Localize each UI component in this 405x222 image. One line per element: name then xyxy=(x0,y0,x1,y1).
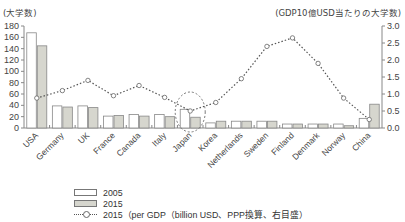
bar-2015 xyxy=(114,116,124,128)
line-marker xyxy=(265,44,269,48)
left-tick-label: 0 xyxy=(14,123,19,133)
right-tick-label: 1.5 xyxy=(387,72,400,82)
bar-2015 xyxy=(267,121,277,128)
right-tick-label: 0.5 xyxy=(387,106,400,116)
line-marker xyxy=(316,61,320,65)
bar-2005 xyxy=(283,124,293,128)
bar-2015 xyxy=(63,107,73,128)
category-label: Denmark xyxy=(290,130,322,162)
left-tick-label: 40 xyxy=(9,100,19,110)
bar-2005 xyxy=(155,114,165,128)
right-tick-label: 2.5 xyxy=(387,38,400,48)
right-tick-label: 1.0 xyxy=(387,89,400,99)
legend: 2005 2015 2015（per GDP（billion USD、PPP換算… xyxy=(74,187,308,220)
bar-2005 xyxy=(206,123,216,128)
legend-label-2005: 2005 xyxy=(103,188,123,198)
left-tick-label: 140 xyxy=(4,44,19,54)
bar-2015 xyxy=(88,108,98,128)
category-label: Canada xyxy=(114,130,142,158)
left-tick-label: 60 xyxy=(9,89,19,99)
line-marker xyxy=(188,109,192,113)
legend-swatch-2015 xyxy=(74,200,97,207)
bar-2015 xyxy=(242,121,252,128)
right-tick-label: 3.0 xyxy=(387,21,400,31)
left-tick-label: 120 xyxy=(4,55,19,65)
left-tick-label: 20 xyxy=(9,112,19,122)
category-label: France xyxy=(91,130,117,156)
line-marker xyxy=(137,83,141,87)
category-label: UK xyxy=(76,130,92,146)
category-label: Norway xyxy=(320,130,348,158)
bar-2015 xyxy=(165,117,175,128)
line-marker xyxy=(290,36,294,40)
bar-2015 xyxy=(344,126,354,128)
category-label: Sweden xyxy=(242,130,271,159)
category-label: Italy xyxy=(150,130,169,149)
bar-2005 xyxy=(129,114,139,128)
line-marker xyxy=(239,77,243,81)
line-marker xyxy=(341,96,345,100)
bar-2015 xyxy=(370,104,380,128)
line-marker xyxy=(60,88,64,92)
category-label: Germany xyxy=(34,130,66,162)
bar-2005 xyxy=(334,124,344,128)
bar-2005 xyxy=(78,106,88,128)
left-tick-label: 160 xyxy=(4,32,19,42)
line-marker xyxy=(35,96,39,100)
line-marker xyxy=(214,100,218,104)
bar-2015 xyxy=(140,116,150,128)
line-marker xyxy=(162,95,166,99)
left-tick-label: 180 xyxy=(4,21,19,31)
bar-2005 xyxy=(27,33,36,128)
legend-item-2005: 2005 xyxy=(74,187,308,198)
bar-2015 xyxy=(293,124,303,128)
bar-2015 xyxy=(319,124,329,128)
bar-2015 xyxy=(191,117,201,128)
line-marker xyxy=(367,117,371,121)
bar-line-chart: 0204060801001201401601800.00.51.01.52.02… xyxy=(0,0,405,185)
bar-2015 xyxy=(37,46,47,128)
left-tick-label: 100 xyxy=(4,66,19,76)
bar-2005 xyxy=(52,106,62,128)
category-label: China xyxy=(350,130,373,153)
category-label: USA xyxy=(21,130,41,150)
line-marker xyxy=(86,78,90,82)
right-tick-label: 0.0 xyxy=(387,123,400,133)
legend-item-per-gdp: 2015（per GDP（billion USD、PPP換算、右目盛） xyxy=(74,209,308,220)
left-tick-label: 80 xyxy=(9,78,19,88)
line-marker xyxy=(111,94,115,98)
legend-label-2015: 2015 xyxy=(103,199,123,209)
legend-label-per-gdp: 2015（per GDP（billion USD、PPP換算、右目盛） xyxy=(103,208,308,221)
legend-swatch-dotted-line-icon xyxy=(74,211,97,218)
category-label: Japan xyxy=(170,130,194,154)
bar-2015 xyxy=(216,121,226,128)
category-label: Korea xyxy=(196,130,219,153)
bar-2005 xyxy=(257,121,267,128)
right-tick-label: 2.0 xyxy=(387,55,400,65)
bar-2005 xyxy=(231,121,241,128)
bar-2005 xyxy=(104,116,114,128)
legend-swatch-2005 xyxy=(74,189,97,196)
bar-2005 xyxy=(308,124,318,128)
